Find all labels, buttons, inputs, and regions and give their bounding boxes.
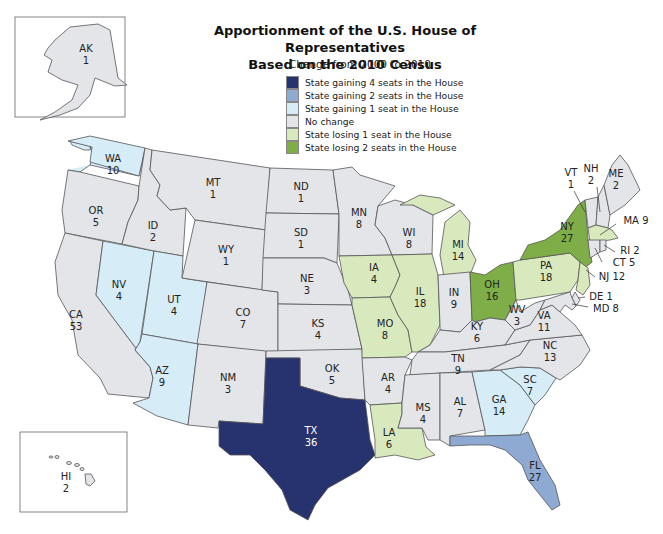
label-CT: CT 5 [613, 257, 636, 268]
label-OH: OH [484, 279, 499, 290]
legend-item-gain4: State gaining 4 seats in the House [286, 76, 463, 89]
label-WV: WV [509, 304, 526, 315]
legend-label: State losing 2 seats in the House [305, 142, 457, 153]
seats-CA: 53 [70, 321, 83, 332]
legend-item-lose1: State losing 1 seat in the House [286, 128, 463, 141]
seats-ND: 1 [298, 193, 304, 204]
label-GA: GA [492, 394, 507, 405]
seats-AL: 7 [457, 408, 463, 419]
title-line-1: Apportionment of the U.S. House of Repre… [200, 22, 490, 56]
label-FL: FL [529, 460, 541, 471]
swatch-nochange [286, 115, 299, 128]
label-AL: AL [454, 396, 467, 407]
label-NM: NM [220, 372, 236, 383]
label-LA: LA [383, 427, 396, 438]
state-SD[interactable] [263, 213, 339, 263]
seats-MS: 4 [420, 414, 426, 425]
legend-item-lose2: State losing 2 seats in the House [286, 141, 463, 154]
legend-label: State gaining 2 seats in the House [305, 90, 463, 101]
seats-IL: 18 [414, 298, 427, 309]
seats-HI: 2 [63, 483, 69, 494]
seats-MN: 8 [356, 219, 362, 230]
legend-label: State losing 1 seat in the House [305, 129, 452, 140]
seats-WI: 8 [406, 239, 412, 250]
seats-TX: 36 [305, 437, 318, 448]
legend-label: State gaining 1 seat in the House [305, 103, 459, 114]
seats-NY: 27 [561, 233, 574, 244]
seats-WV: 3 [514, 316, 520, 327]
label-NY: NY [560, 221, 574, 232]
label-MS: MS [416, 402, 431, 413]
seats-CO: 7 [240, 319, 246, 330]
label-SD: SD [294, 227, 308, 238]
label-HI: HI [61, 471, 71, 482]
seats-WA: 10 [107, 165, 120, 176]
seats-OR: 5 [93, 217, 99, 228]
seats-WY: 1 [223, 256, 229, 267]
label-UT: UT [167, 294, 181, 305]
seats-TN: 9 [455, 365, 461, 376]
seats-NV: 4 [116, 291, 122, 302]
label-TX: TX [304, 425, 318, 436]
label-MT: MT [206, 177, 222, 188]
seats-LA: 6 [386, 439, 392, 450]
label-SC: SC [523, 374, 536, 385]
label-VT: VT [565, 167, 579, 178]
seats-GA: 14 [493, 406, 506, 417]
swatch-gain2 [286, 89, 299, 102]
swatch-lose1 [286, 128, 299, 141]
seats-SD: 1 [298, 239, 304, 250]
state-WY[interactable] [182, 220, 266, 290]
seats-AR: 4 [385, 384, 391, 395]
label-ND: ND [293, 181, 308, 192]
label-PA: PA [540, 260, 552, 271]
seats-NE: 3 [304, 285, 310, 296]
label-WA: WA [105, 153, 121, 164]
legend-label: State gaining 4 seats in the House [305, 77, 463, 88]
label-VA: VA [537, 310, 550, 321]
label-IA: IA [369, 262, 379, 273]
seats-VT: 1 [568, 179, 574, 190]
label-DE: DE 1 [589, 291, 613, 302]
seats-KY: 6 [474, 333, 480, 344]
seats-MO: 8 [382, 330, 388, 341]
swatch-lose2 [286, 141, 299, 154]
seats-UT: 4 [171, 306, 177, 317]
seats-IA: 4 [371, 274, 377, 285]
seats-NC: 13 [544, 352, 557, 363]
label-NJ: NJ 12 [599, 271, 625, 282]
label-AK: AK [79, 43, 93, 54]
state-CT[interactable] [588, 240, 600, 258]
label-OR: OR [89, 205, 104, 216]
label-MD: MD 8 [593, 303, 619, 314]
seats-IN: 9 [451, 299, 457, 310]
state-MA[interactable] [588, 225, 618, 242]
seats-SC: 7 [527, 386, 533, 397]
label-NC: NC [543, 340, 557, 351]
label-MI: MI [452, 239, 464, 250]
label-AR: AR [381, 372, 395, 383]
seats-MI: 14 [452, 251, 465, 262]
label-RI: RI 2 [620, 245, 639, 256]
label-KY: KY [471, 321, 484, 332]
label-WY: WY [218, 244, 235, 255]
label-IN: IN [449, 287, 459, 298]
seats-ID: 2 [150, 232, 156, 243]
hawaii-inset [20, 432, 127, 512]
legend-item-nochange: No change [286, 115, 463, 128]
label-NH: NH [584, 163, 599, 174]
legend-item-gain2: State gaining 2 seats in the House [286, 89, 463, 102]
seats-AZ: 9 [159, 377, 165, 388]
seats-ME: 2 [613, 180, 619, 191]
label-MO: MO [377, 318, 394, 329]
seats-PA: 18 [540, 272, 553, 283]
label-NV: NV [112, 279, 126, 290]
label-AZ: AZ [155, 365, 169, 376]
seats-NH: 2 [588, 175, 594, 186]
seats-FL: 27 [529, 472, 542, 483]
state-FL[interactable] [450, 432, 560, 510]
swatch-gain4 [286, 76, 299, 89]
seats-OH: 16 [486, 291, 499, 302]
label-KS: KS [312, 318, 325, 329]
state-ME[interactable] [604, 155, 640, 215]
